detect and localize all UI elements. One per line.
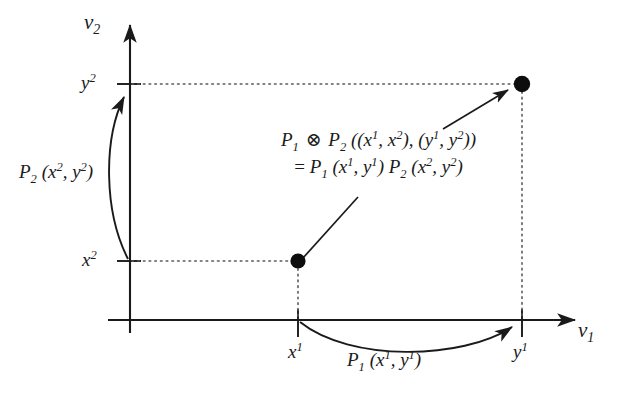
horizontal-axis-label: ν1 (578, 318, 594, 346)
formula-line-1: P1 ⊗ P2 ((x1, x2), (y1, y2)) (281, 128, 476, 155)
vertical-axis-label: ν2 (84, 10, 100, 38)
vertical-transition-arc (109, 97, 128, 259)
tensor-product-formula: P1 ⊗ P2 ((x1, x2), (y1, y2)) = P1 (x1, y… (281, 128, 476, 181)
point-lower (290, 253, 305, 268)
tick-label-x1: x1 (288, 340, 303, 363)
vertical-arc-label: P2 (x2, y2) (19, 160, 93, 187)
tick-label-x2: x2 (82, 248, 97, 271)
formula-line-2: = P1 (x1, y1) P2 (x2, y2) (281, 155, 476, 182)
horizontal-arc-label: P1 (x1, y1) (347, 348, 421, 375)
point-upper (514, 76, 530, 92)
tick-label-y1: y1 (513, 340, 528, 363)
leader-line-lower (303, 197, 358, 258)
tick-label-y2: y2 (81, 71, 96, 94)
figure-canvas: ν2 ν1 y2 x2 x1 y1 P2 (x2, y2) P1 (x1, y1… (0, 0, 621, 395)
leader-line-upper (443, 90, 508, 129)
diagram-vector-layer (0, 0, 621, 395)
